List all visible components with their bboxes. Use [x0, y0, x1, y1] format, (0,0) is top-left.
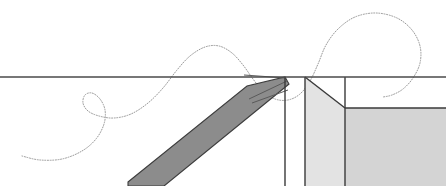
mid-gray-rectangle-shape	[345, 108, 446, 186]
geometric-drawing-canvas	[0, 0, 446, 186]
figure-root	[0, 0, 446, 186]
